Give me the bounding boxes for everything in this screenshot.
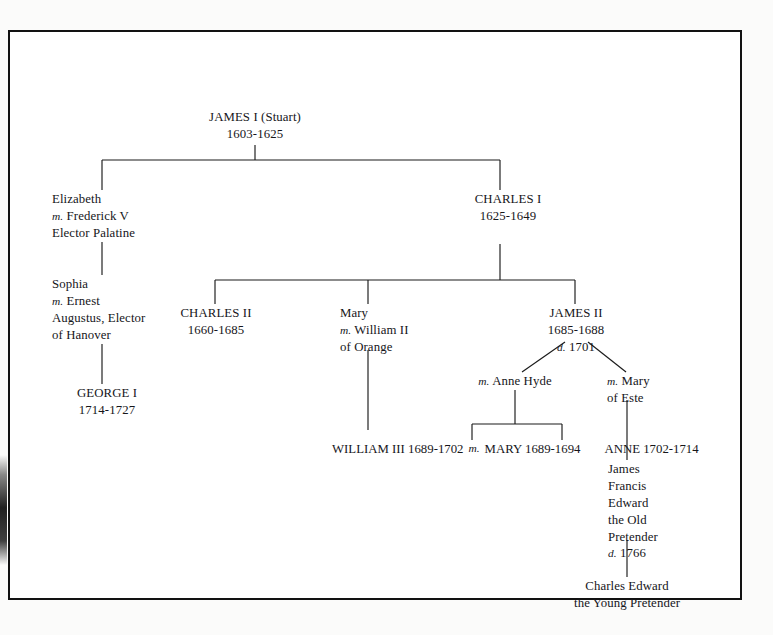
james-ii-death-year: 1701 xyxy=(569,340,595,354)
scan-edge-artifact xyxy=(0,455,7,565)
old-pretender-line-1: James xyxy=(608,461,658,478)
node-mary-ii: MARY 1689-1694 xyxy=(485,441,581,458)
mary-orange-marriage: m. William II xyxy=(340,322,409,339)
mary-orange-spouse: William II xyxy=(354,323,408,337)
sophia-spouse-title-1: Augustus, Elector xyxy=(52,310,145,327)
james-i-dates: 1603-1625 xyxy=(209,126,301,143)
young-pretender-line-2: the Young Pretender xyxy=(574,595,680,612)
mary-orange-spouse-title: of Orange xyxy=(340,339,409,356)
node-mary-orange: Mary m. William II of Orange xyxy=(340,305,409,356)
node-old-pretender: James Francis Edward the Old Pretender d… xyxy=(608,461,658,562)
mary-este-line-1: m. Mary xyxy=(607,373,650,390)
george-i-name: GEORGE I xyxy=(77,385,137,402)
node-james-i: JAMES I (Stuart) 1603-1625 xyxy=(209,109,301,143)
node-elizabeth: Elizabeth m. Frederick V Elector Palatin… xyxy=(52,191,135,242)
node-george-i: GEORGE I 1714-1727 xyxy=(77,385,137,419)
james-ii-name: JAMES II xyxy=(548,305,604,322)
anne-dates: 1702-1714 xyxy=(643,442,698,456)
james-ii-dates: 1685-1688 xyxy=(548,322,604,339)
sophia-name: Sophia xyxy=(52,276,145,293)
james-i-name: JAMES I (Stuart) xyxy=(209,109,301,126)
sophia-spouse: Ernest xyxy=(67,294,100,308)
elizabeth-spouse-title: Elector Palatine xyxy=(52,225,135,242)
old-pretender-line-2: Francis xyxy=(608,478,658,495)
old-pretender-line-5: Pretender xyxy=(608,529,658,546)
marriage-prefix-icon: m. xyxy=(478,375,489,387)
elizabeth-marriage: m. Frederick V xyxy=(52,208,135,225)
node-william-iii: WILLIAM III 1689-1702 xyxy=(332,441,464,458)
marriage-prefix-icon: m. xyxy=(607,375,618,387)
mary-este-name: Mary xyxy=(622,374,650,388)
node-charles-i: CHARLES I 1625-1649 xyxy=(475,191,542,225)
william-iii-dates: 1689-1702 xyxy=(408,442,463,456)
charles-ii-name: CHARLES II xyxy=(180,305,251,322)
old-pretender-line-4: the Old xyxy=(608,512,658,529)
mary-este-line-2: of Este xyxy=(607,390,650,407)
george-i-dates: 1714-1727 xyxy=(77,402,137,419)
marriage-joiner-icon: m. xyxy=(464,441,485,454)
node-charles-ii: CHARLES II 1660-1685 xyxy=(180,305,251,339)
charles-i-dates: 1625-1649 xyxy=(475,208,542,225)
death-prefix-icon: d. xyxy=(608,547,617,559)
old-pretender-line-3: Edward xyxy=(608,495,658,512)
node-anne-hyde: m. Anne Hyde xyxy=(478,373,551,390)
sophia-marriage: m. Ernest xyxy=(52,293,145,310)
anne-hyde-name: Anne Hyde xyxy=(492,374,552,388)
mary-ii-dates: 1689-1694 xyxy=(525,442,580,456)
node-young-pretender: Charles Edward the Young Pretender xyxy=(574,578,680,612)
old-pretender-death: d. 1766 xyxy=(608,545,658,562)
node-james-ii: JAMES II 1685-1688 d. 1701 xyxy=(548,305,604,356)
elizabeth-name: Elizabeth xyxy=(52,191,135,208)
node-mary-este: m. Mary of Este xyxy=(607,373,650,407)
mary-ii-name: MARY xyxy=(485,442,522,456)
marriage-prefix-icon: m. xyxy=(340,324,351,336)
young-pretender-line-1: Charles Edward xyxy=(574,578,680,595)
william-iii-name: WILLIAM III xyxy=(332,442,405,456)
charles-ii-dates: 1660-1685 xyxy=(180,322,251,339)
mary-orange-name: Mary xyxy=(340,305,409,322)
marriage-prefix-icon: m. xyxy=(52,210,63,222)
old-pretender-death-year: 1766 xyxy=(620,546,646,560)
diagram-page-frame: JAMES I (Stuart) 1603-1625 Elizabeth m. … xyxy=(8,30,742,600)
node-william-mary-anne-row: WILLIAM III 1689-1702 m. MARY 1689-1694 … xyxy=(332,441,699,458)
elizabeth-spouse: Frederick V xyxy=(67,209,129,223)
james-ii-death: d. 1701 xyxy=(548,339,604,356)
charles-i-name: CHARLES I xyxy=(475,191,542,208)
family-tree-chart: JAMES I (Stuart) 1603-1625 Elizabeth m. … xyxy=(10,32,740,598)
sophia-spouse-title-2: of Hanover xyxy=(52,327,145,344)
node-anne: ANNE 1702-1714 xyxy=(580,441,698,458)
anne-hyde-line: m. Anne Hyde xyxy=(478,373,551,390)
death-prefix-icon: d. xyxy=(557,341,566,353)
node-sophia: Sophia m. Ernest Augustus, Elector of Ha… xyxy=(52,276,145,344)
anne-name: ANNE xyxy=(604,442,640,456)
marriage-prefix-icon: m. xyxy=(52,295,63,307)
